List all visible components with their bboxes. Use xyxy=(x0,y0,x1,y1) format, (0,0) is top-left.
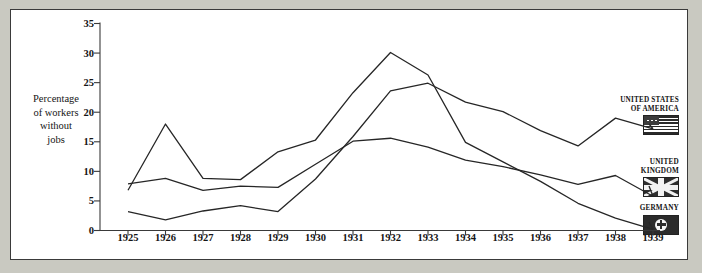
legend-leader-lines xyxy=(649,124,653,229)
series-line-germany xyxy=(128,52,653,229)
chart-series-group xyxy=(128,52,653,229)
series-line-united-kingdom xyxy=(128,138,653,196)
chart-canvas xyxy=(0,0,702,273)
chart-axes xyxy=(94,23,660,236)
chart-figure: Percentage of workers without jobs 35 30… xyxy=(0,0,702,273)
series-line-united-states-of-america xyxy=(128,83,653,220)
